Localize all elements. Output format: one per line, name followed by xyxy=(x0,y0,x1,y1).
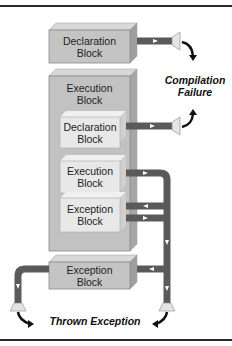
compilation-failure-label: Compilation Failure xyxy=(160,74,230,98)
top-declaration-block: Declaration Block xyxy=(49,30,130,63)
inner-declaration-block: Declaration Block xyxy=(60,117,120,148)
compilation-failure-line2: Failure xyxy=(160,86,230,98)
compilation-failure-line1: Compilation xyxy=(160,74,230,86)
outer-execution-block-label: Execution Block xyxy=(49,80,130,108)
inner-exception-block: Exception Block xyxy=(60,198,120,232)
thrown-exception-label: Thrown Exception xyxy=(40,315,150,327)
outer-exception-block: Exception Block xyxy=(49,262,130,289)
inner-execution-block: Execution Block xyxy=(60,161,120,193)
